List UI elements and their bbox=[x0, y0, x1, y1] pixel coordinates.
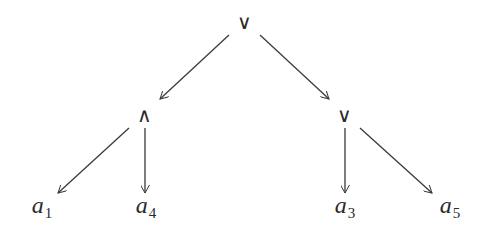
leaf-a5-base: a bbox=[440, 192, 452, 218]
leaf-a3: a3 bbox=[335, 193, 356, 221]
leaf-a3-base: a bbox=[335, 192, 347, 218]
edges-layer bbox=[0, 0, 481, 227]
edge-arrow-or-to-a5 bbox=[360, 128, 432, 193]
leaf-a4: a4 bbox=[136, 193, 157, 221]
leaf-a4-sub: 4 bbox=[149, 205, 157, 221]
edge-arrow-root-to-and bbox=[160, 35, 229, 99]
leaf-a1-sub: 1 bbox=[45, 205, 53, 221]
or-node: ∨ bbox=[337, 105, 352, 125]
root-or-node: ∨ bbox=[237, 12, 252, 32]
leaf-a5: a5 bbox=[440, 193, 461, 221]
leaf-a4-base: a bbox=[136, 192, 148, 218]
edge-arrow-root-to-or bbox=[260, 35, 329, 99]
leaf-a1-base: a bbox=[32, 192, 44, 218]
edge-arrow-and-to-a1 bbox=[58, 128, 129, 193]
leaf-a3-sub: 3 bbox=[348, 205, 356, 221]
and-node: ∧ bbox=[137, 105, 152, 125]
leaf-a5-sub: 5 bbox=[453, 205, 461, 221]
leaf-a1: a1 bbox=[32, 193, 53, 221]
